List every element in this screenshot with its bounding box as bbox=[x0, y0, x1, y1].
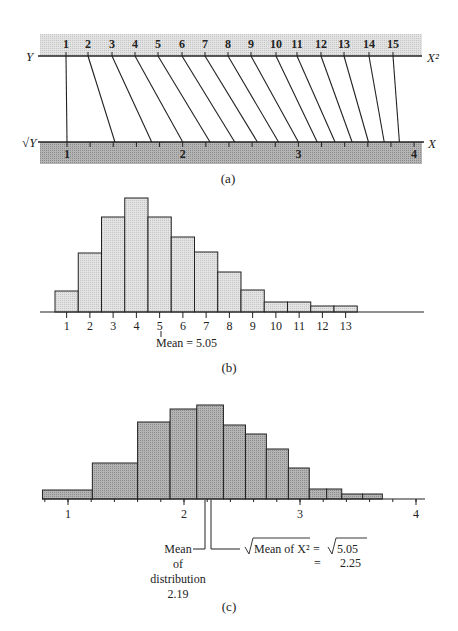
top-scale-label: 13 bbox=[338, 37, 350, 51]
mapping-line bbox=[205, 56, 257, 142]
svg-text:5.05: 5.05 bbox=[337, 542, 358, 556]
histogram-bar bbox=[92, 463, 137, 499]
histogram-bar bbox=[125, 198, 148, 312]
svg-text:=: = bbox=[313, 542, 320, 556]
histogram-b-bars bbox=[55, 198, 357, 312]
x-tick-label: 5 bbox=[157, 319, 163, 333]
top-scale-label: 4 bbox=[132, 37, 138, 51]
histogram-bar bbox=[148, 217, 171, 312]
x-tick-label: 6 bbox=[180, 319, 186, 333]
x-tick-label: 3 bbox=[110, 319, 116, 333]
x-tick-label: 4 bbox=[133, 319, 139, 333]
top-scale-label: 3 bbox=[109, 37, 115, 51]
mapping-line bbox=[297, 56, 335, 142]
x-tick-label: 2 bbox=[181, 507, 187, 521]
histogram-bar bbox=[195, 252, 218, 312]
x-tick-label: 3 bbox=[297, 507, 303, 521]
panel-c: 1234 Mean of distribution 2.19 Mean of X… bbox=[42, 405, 425, 614]
mean-label-b: Mean = 5.05 bbox=[156, 336, 217, 350]
histogram-c-bars bbox=[42, 405, 382, 499]
mapping-line bbox=[228, 56, 279, 142]
histogram-bar bbox=[170, 409, 197, 499]
top-scale-label: 5 bbox=[155, 37, 161, 51]
top-scale-label: 7 bbox=[202, 37, 208, 51]
histogram-bar bbox=[78, 253, 101, 312]
panel-a: Y X² √Y X 123456789101112131415 1234 (a) bbox=[22, 34, 440, 186]
svg-text:distribution: distribution bbox=[150, 572, 205, 586]
histogram-bar bbox=[288, 468, 309, 499]
histogram-bar bbox=[197, 405, 224, 499]
bottom-scale-band bbox=[40, 142, 422, 164]
histogram-bar bbox=[327, 489, 342, 499]
histogram-bar bbox=[241, 290, 264, 312]
top-scale-label: 9 bbox=[248, 37, 254, 51]
histogram-b-ticks: 12345678910111213 bbox=[64, 312, 352, 333]
x-tick-label: 1 bbox=[64, 319, 70, 333]
mapping-line bbox=[251, 56, 298, 142]
bottom-scale-label: 2 bbox=[180, 147, 186, 161]
svg-text:2.25: 2.25 bbox=[340, 556, 361, 570]
top-scale-label: 2 bbox=[85, 37, 91, 51]
x-tick-label: 13 bbox=[340, 319, 352, 333]
svg-text:of: of bbox=[173, 557, 183, 571]
sqrt-mean-label: Mean of X² = 5.05 = 2.25 bbox=[245, 538, 367, 570]
x-tick-label: 1 bbox=[65, 507, 71, 521]
mapping-line bbox=[369, 56, 384, 142]
x-axis-label: X bbox=[427, 136, 437, 151]
sqrt-y-label: √Y bbox=[22, 135, 38, 150]
histogram-bar bbox=[138, 422, 170, 499]
histogram-c-ticks: 1234 bbox=[45, 499, 419, 521]
top-scale-label: 8 bbox=[225, 37, 231, 51]
histogram-bar bbox=[342, 494, 363, 499]
mapping-line bbox=[276, 56, 317, 142]
histogram-bar bbox=[264, 302, 287, 312]
x-squared-label: X² bbox=[426, 50, 440, 65]
top-scale-label: 1 bbox=[63, 37, 69, 51]
histogram-bar bbox=[42, 490, 92, 499]
histogram-bar bbox=[55, 291, 78, 312]
mapping-line bbox=[158, 56, 210, 142]
histogram-bar bbox=[223, 425, 245, 499]
top-scale-label: 15 bbox=[387, 37, 399, 51]
caption-c: (c) bbox=[222, 599, 236, 614]
histogram-bar bbox=[309, 489, 326, 499]
histogram-bar bbox=[288, 302, 311, 312]
mapping-line bbox=[66, 56, 67, 142]
caption-b: (b) bbox=[221, 360, 236, 375]
top-scale-label: 6 bbox=[179, 37, 185, 51]
x-tick-label: 11 bbox=[293, 319, 305, 333]
top-scale-label: 10 bbox=[270, 37, 282, 51]
x-tick-label: 10 bbox=[270, 319, 282, 333]
y-axis-label: Y bbox=[26, 49, 35, 64]
mapping-line bbox=[88, 56, 115, 142]
panel-b: 12345678910111213 Mean = 5.05 (b) bbox=[40, 198, 424, 375]
x-tick-label: 2 bbox=[87, 319, 93, 333]
figure-canvas: Y X² √Y X 123456789101112131415 1234 (a)… bbox=[0, 0, 458, 631]
mean-distribution-pointer bbox=[193, 500, 205, 549]
x-tick-label: 4 bbox=[413, 507, 419, 521]
sqrt-mean-pointer bbox=[211, 500, 240, 549]
histogram-bar bbox=[311, 306, 334, 312]
bottom-scale-label: 3 bbox=[295, 147, 301, 161]
histogram-bar bbox=[245, 434, 266, 499]
histogram-bar bbox=[218, 272, 241, 312]
histogram-bar bbox=[102, 217, 125, 312]
mapping-line bbox=[182, 56, 235, 142]
mean-distribution-label: Mean of distribution 2.19 bbox=[150, 542, 205, 601]
mapping-line bbox=[393, 56, 399, 142]
mapping-line bbox=[135, 56, 183, 142]
histogram-bar bbox=[171, 237, 194, 312]
svg-text:=: = bbox=[314, 556, 321, 570]
x-tick-label: 9 bbox=[250, 319, 256, 333]
top-scale-label: 14 bbox=[363, 37, 375, 51]
top-scale-label: 11 bbox=[291, 37, 302, 51]
histogram-bar bbox=[363, 494, 383, 499]
mapping-line bbox=[112, 56, 152, 142]
bottom-scale-label: 4 bbox=[411, 147, 417, 161]
bottom-scale-label: 1 bbox=[64, 147, 70, 161]
top-scale-label: 12 bbox=[315, 37, 327, 51]
histogram-bar bbox=[266, 449, 288, 499]
x-tick-label: 7 bbox=[203, 319, 209, 333]
mapping-lines bbox=[66, 52, 399, 142]
x-tick-label: 8 bbox=[226, 319, 232, 333]
